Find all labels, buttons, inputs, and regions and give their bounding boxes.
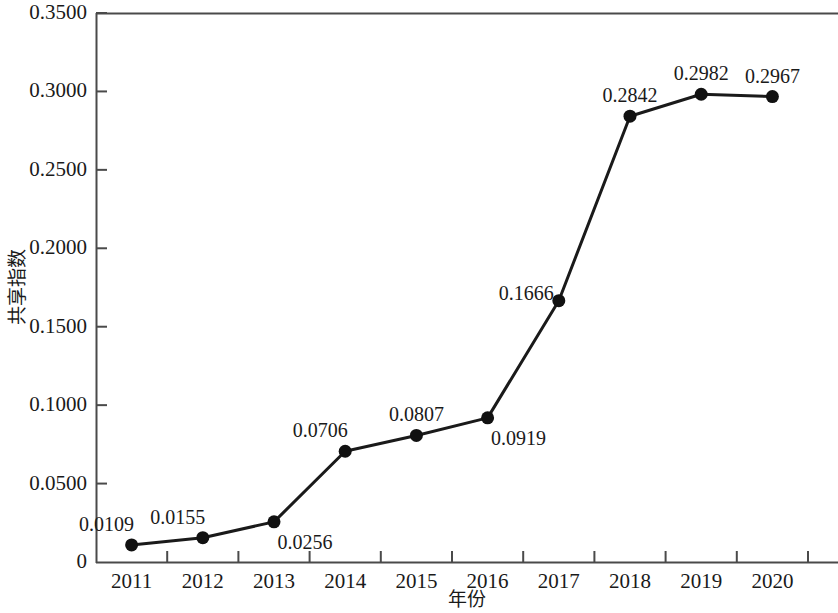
data-point-value-label: 0.0919 [480, 428, 558, 448]
data-point-value-label: 0.2982 [662, 63, 740, 83]
y-tick-label: 0 [77, 551, 88, 572]
x-tick-label: 2011 [92, 571, 172, 592]
x-tick-label: 2020 [732, 571, 812, 592]
data-point-marker [624, 110, 637, 123]
y-axis-title: 共享指数 [8, 241, 27, 331]
data-point-marker [196, 531, 209, 544]
x-axis-title: 年份 [387, 590, 547, 609]
data-point-value-label: 0.0155 [139, 507, 217, 527]
data-point-marker [339, 445, 352, 458]
chart-figure: 00.05000.10000.15000.20000.25000.30000.3… [0, 0, 838, 613]
data-point-value-label: 0.0807 [377, 404, 455, 424]
x-tick-label: 2012 [163, 571, 243, 592]
data-point-marker [410, 429, 423, 442]
y-tick-label: 0.1000 [29, 394, 87, 415]
data-point-value-label: 0.2967 [733, 66, 811, 86]
x-tick-label: 2018 [590, 571, 670, 592]
data-point-marker [552, 294, 565, 307]
y-tick-label: 0.3500 [29, 2, 87, 23]
data-point-marker [766, 90, 779, 103]
data-point-value-label: 0.0109 [68, 514, 146, 534]
y-tick-label: 0.2500 [29, 159, 87, 180]
data-point-value-label: 0.0256 [266, 532, 344, 552]
data-point-value-label: 0.0706 [281, 420, 359, 440]
x-tick-label: 2015 [376, 571, 456, 592]
data-point-value-label: 0.1666 [476, 283, 554, 303]
x-tick-label: 2014 [305, 571, 385, 592]
data-point-marker [125, 538, 138, 551]
data-point-value-label: 0.2842 [591, 85, 669, 105]
y-tick-label: 0.0500 [29, 473, 87, 494]
data-point-marker [481, 411, 494, 424]
x-tick-label: 2013 [234, 571, 314, 592]
x-axis-ticks [167, 551, 808, 562]
data-point-marker [695, 88, 708, 101]
y-tick-label: 0.1500 [29, 316, 87, 337]
x-tick-label: 2017 [519, 571, 599, 592]
y-tick-label: 0.3000 [29, 80, 87, 101]
data-point-marker [268, 515, 281, 528]
data-series-line [132, 94, 773, 545]
data-point-markers [125, 88, 779, 552]
x-tick-label: 2019 [661, 571, 741, 592]
y-axis-ticks [96, 13, 107, 484]
y-tick-label: 0.2000 [29, 237, 87, 258]
